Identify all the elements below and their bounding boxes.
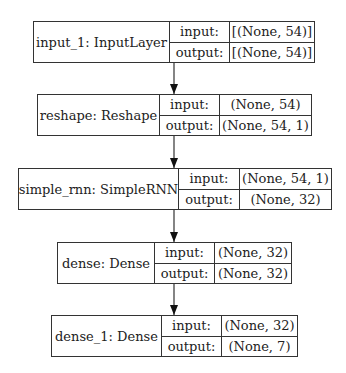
input-label: input: — [170, 22, 229, 43]
output-shape: (None, 32) — [215, 264, 291, 284]
output-shape: (None, 32) — [240, 190, 331, 210]
output-shape: [(None, 54)] — [230, 43, 314, 63]
arrowhead-icon — [170, 232, 178, 242]
output-label: output: — [179, 190, 239, 210]
node-input_1: input_1: InputLayer input: output: [(Non… — [33, 21, 315, 63]
output-shape: (None, 54, 1) — [220, 116, 311, 136]
input-label: input: — [155, 243, 214, 264]
output-label: output: — [170, 43, 229, 63]
arrowhead-icon — [170, 158, 178, 168]
arrowhead-icon — [170, 305, 178, 315]
arrowhead-icon — [170, 84, 178, 94]
edge-input_1-to-reshape — [170, 62, 178, 94]
node-reshape: reshape: Reshape input: output: (None, 5… — [37, 94, 312, 136]
output-label: output: — [160, 116, 219, 136]
input-shape: (None, 32) — [215, 243, 291, 264]
output-label: output: — [162, 337, 221, 357]
input-label: input: — [160, 95, 219, 116]
node-simple_rnn: simple_rnn: SimpleRNN input: output: (No… — [18, 168, 332, 210]
output-label: output: — [155, 264, 214, 284]
input-shape: [(None, 54)] — [230, 22, 314, 43]
edge-reshape-to-simple_rnn — [170, 135, 178, 168]
node-name: dense: Dense — [58, 243, 155, 283]
node-name: input_1: InputLayer — [34, 22, 170, 62]
edge-simple_rnn-to-dense — [170, 209, 178, 242]
node-name: reshape: Reshape — [38, 95, 160, 135]
input-label: input: — [179, 169, 239, 190]
input-label: input: — [162, 316, 221, 337]
node-dense_1: dense_1: Dense input: output: (None, 32)… — [51, 315, 298, 357]
input-shape: (None, 54, 1) — [240, 169, 331, 190]
edge-dense-to-dense_1 — [170, 283, 178, 315]
node-dense: dense: Dense input: output: (None, 32) (… — [57, 242, 292, 284]
node-name: simple_rnn: SimpleRNN — [19, 169, 179, 209]
input-shape: (None, 54) — [220, 95, 311, 116]
input-shape: (None, 32) — [222, 316, 297, 337]
node-name: dense_1: Dense — [52, 316, 162, 356]
output-shape: (None, 7) — [222, 337, 297, 357]
